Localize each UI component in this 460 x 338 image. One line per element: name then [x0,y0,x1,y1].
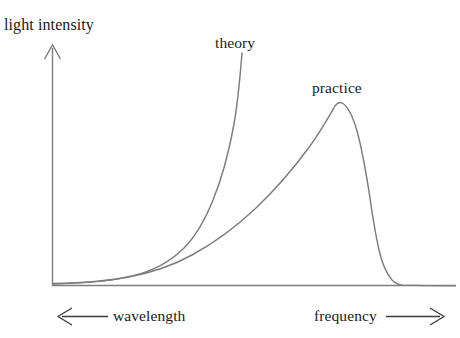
theory-curve [53,53,242,284]
practice-curve-label: practice [312,80,362,96]
blackbody-radiation-diagram: light intensity theory practice waveleng… [0,0,460,338]
practice-curve [53,102,455,285]
wavelength-arrow-icon [58,308,108,325]
frequency-axis-label: frequency [314,308,377,324]
frequency-arrow-icon [386,308,444,325]
y-axis [45,45,61,285]
y-axis-title: light intensity [4,17,94,33]
wavelength-axis-label: wavelength [113,308,185,324]
theory-curve-label: theory [215,35,255,51]
